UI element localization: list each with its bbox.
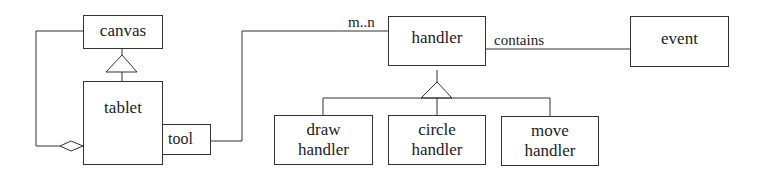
draw-handler-line2: handler	[275, 140, 372, 160]
aggregation-line	[36, 31, 83, 146]
class-canvas: canvas	[83, 15, 163, 49]
handler-generalization-triangle-icon	[421, 82, 452, 98]
class-handler: handler	[388, 16, 486, 66]
class-tablet: tablet	[83, 81, 163, 165]
class-event: event	[630, 16, 729, 67]
aggregation-diamond-icon	[60, 141, 83, 151]
class-circle-handler: circle handler	[388, 115, 486, 165]
move-handler-line2: handler	[502, 141, 598, 161]
class-draw-handler: draw handler	[274, 115, 373, 165]
generalization-triangle-icon	[106, 55, 137, 72]
move-handler-line1: move	[502, 121, 598, 141]
multiplicity-label: m..n	[348, 14, 375, 31]
class-tablet-label: tablet	[104, 98, 142, 117]
draw-handler-line1: draw	[275, 120, 372, 140]
class-canvas-label: canvas	[100, 21, 146, 40]
contains-label: contains	[494, 32, 544, 49]
class-move-handler: move handler	[501, 116, 599, 166]
class-tool-label: tool	[168, 130, 193, 147]
class-tool: tool	[162, 124, 211, 155]
circle-handler-line1: circle	[389, 120, 485, 140]
class-handler-label: handler	[412, 28, 463, 47]
circle-handler-line2: handler	[389, 140, 485, 160]
class-event-label: event	[661, 29, 698, 48]
